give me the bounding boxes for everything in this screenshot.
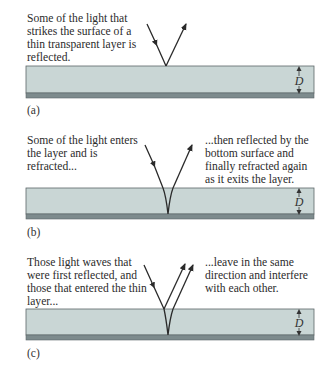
exiting-ray: [173, 145, 192, 188]
thickness-label: D: [294, 316, 304, 330]
panel-a-label: (a): [27, 104, 40, 116]
thickness-label: D: [294, 74, 304, 88]
incident-ray: [144, 265, 164, 309]
thin-layer: [26, 66, 314, 98]
panel-b-left-caption: Some of the light enters the layer and i…: [27, 134, 138, 173]
panel-c-label: (c): [27, 347, 40, 359]
reflected-ray: [166, 24, 186, 66]
panel-b-label: (b): [27, 226, 40, 238]
exiting-ray: [173, 265, 193, 309]
incident-ray: [145, 145, 163, 188]
panel-b-right-caption: ...then reflected by the bottom surface …: [205, 134, 309, 186]
panel-c-left-caption: Those light waves that were first reflec…: [27, 256, 147, 308]
thickness-label: D: [294, 195, 304, 209]
panel-c-right-caption: ...leave in the same direction and inter…: [205, 256, 308, 295]
reflected-ray: [164, 264, 185, 309]
incident-ray: [147, 24, 166, 66]
panel-a-left-caption: Some of the light that strikes the surfa…: [27, 12, 136, 64]
